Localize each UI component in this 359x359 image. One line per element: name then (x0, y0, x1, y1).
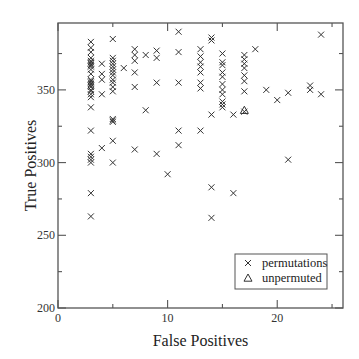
scatter-chart: 01020200250300350 False Positives True P… (0, 0, 359, 359)
legend: permutations unpermuted (235, 254, 327, 289)
series-permutations (88, 29, 324, 221)
x-tick-label: 10 (162, 311, 174, 325)
x-axis-title: False Positives (153, 332, 249, 349)
y-tick-label: 250 (37, 228, 55, 242)
y-tick-label: 300 (37, 156, 55, 170)
legend-label-permutations: permutations (262, 256, 327, 270)
x-tick-label: 20 (271, 311, 283, 325)
legend-label-unpermuted: unpermuted (262, 271, 322, 285)
y-tick-label: 350 (37, 83, 55, 97)
y-axis-title: True Positives (22, 120, 39, 211)
x-tick-label: 0 (55, 311, 61, 325)
y-tick-label: 200 (37, 301, 55, 315)
data-points (88, 29, 324, 221)
